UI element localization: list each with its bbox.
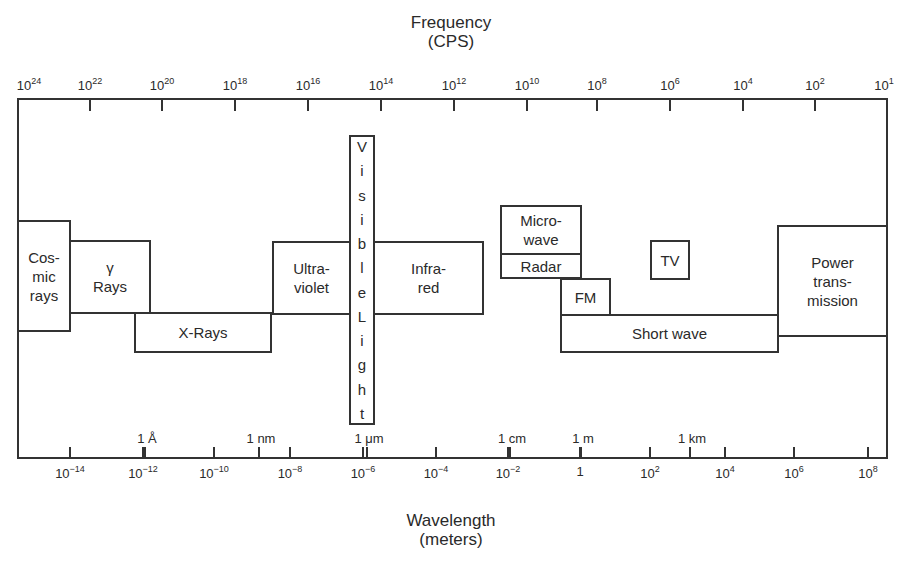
- wavelength-tick-mark: [289, 447, 291, 459]
- visible-light-letter: V: [357, 138, 367, 155]
- band-label: Infra- red: [411, 259, 446, 297]
- tick-exponent: 22: [92, 76, 102, 86]
- tick-base: 10: [442, 78, 456, 93]
- wavelength-label: Wavelength: [351, 511, 551, 530]
- wavelength-tick-label: 106: [784, 464, 803, 481]
- tick-base: 10: [515, 78, 529, 93]
- wavelength-tick-label: 104: [715, 464, 734, 481]
- wavelength-unit-tick: [258, 447, 260, 459]
- visible-light-letter: L: [358, 308, 366, 325]
- wavelength-unit-marker: 1 cm: [498, 431, 526, 446]
- band-radar: Radar: [500, 253, 582, 279]
- visible-light-letter: i: [360, 332, 363, 349]
- tick-base: 10: [369, 78, 383, 93]
- wavelength-unit-marker: 1 Å: [137, 431, 157, 446]
- band-label: γ Rays: [93, 258, 127, 296]
- frequency-tick-label: 108: [587, 76, 606, 93]
- band-x-rays: X-Rays: [134, 312, 272, 353]
- band-cosmic-rays: Cos- mic rays: [17, 220, 71, 332]
- tick-exponent: 16: [310, 76, 320, 86]
- tick-base: 10: [587, 78, 601, 93]
- wavelength-tick-mark: [867, 447, 869, 459]
- band-label: FM: [575, 288, 597, 307]
- visible-light-letter: i: [360, 211, 363, 228]
- tick-exponent: −14: [70, 464, 85, 474]
- band-power-transmission: Power trans- mission: [777, 225, 888, 337]
- tick-base: 10: [17, 78, 31, 93]
- frequency-tick-label: 1022: [78, 76, 102, 93]
- tick-base: 10: [424, 466, 438, 481]
- visible-light-letter: g: [358, 356, 366, 373]
- tick-base: 10: [296, 78, 310, 93]
- tick-base: 10: [278, 466, 292, 481]
- wavelength-tick-mark: [435, 447, 437, 459]
- band-label: Power trans- mission: [807, 253, 858, 310]
- wavelength-tick-mark: [724, 447, 726, 459]
- tick-base: 10: [199, 466, 213, 481]
- tick-base: 10: [78, 78, 92, 93]
- frequency-tick-label: 1014: [369, 76, 393, 93]
- tick-base: 1: [576, 464, 583, 479]
- tick-base: 10: [55, 466, 69, 481]
- band-visible-light: VisibleLight: [349, 135, 375, 425]
- frequency-tick-label: 1018: [223, 76, 247, 93]
- tick-exponent: 2: [820, 76, 825, 86]
- tick-exponent: −8: [292, 464, 302, 474]
- wavelength-tick-mark: [69, 447, 71, 459]
- tick-exponent: 8: [602, 76, 607, 86]
- band-infrared: Infra- red: [373, 241, 484, 315]
- wavelength-tick-label: 10−6: [351, 464, 376, 481]
- wavelength-unit-tick: [366, 447, 368, 459]
- frequency-tick-mark: [380, 99, 382, 111]
- tick-base: 10: [805, 78, 819, 93]
- tick-base: 10: [640, 466, 654, 481]
- frequency-tick-label: 106: [660, 76, 679, 93]
- wavelength-tick-label: 10−14: [55, 464, 85, 481]
- wavelength-unit-tick: [580, 447, 582, 459]
- band-label: Radar: [521, 257, 562, 276]
- frequency-axis-title: Frequency (CPS): [351, 13, 551, 51]
- band-label: Micro- wave: [520, 211, 562, 249]
- tick-base: 10: [223, 78, 237, 93]
- band-ultraviolet: Ultra- violet: [272, 241, 351, 315]
- wavelength-tick-label: 10−12: [128, 464, 158, 481]
- tick-base: 10: [150, 78, 164, 93]
- tick-exponent: 14: [383, 76, 393, 86]
- frequency-tick-mark: [89, 99, 91, 111]
- band-microwave: Micro- wave: [500, 205, 582, 255]
- band-label: Short wave: [632, 324, 707, 343]
- tick-exponent: −4: [438, 464, 448, 474]
- frequency-unit: (CPS): [351, 32, 551, 51]
- tick-exponent: −10: [214, 464, 229, 474]
- visible-light-letter: b: [358, 235, 366, 252]
- wavelength-tick-label: 10−8: [278, 464, 303, 481]
- frequency-tick-mark: [814, 99, 816, 111]
- wavelength-tick-mark: [213, 447, 215, 459]
- band-label: X-Rays: [178, 323, 227, 342]
- wavelength-unit-tick: [509, 447, 511, 459]
- band-label: Ultra- violet: [293, 259, 330, 297]
- wavelength-unit-tick: [144, 447, 146, 459]
- visible-light-letter: s: [358, 187, 366, 204]
- tick-base: 10: [351, 466, 365, 481]
- frequency-tick-mark: [453, 99, 455, 111]
- wavelength-tick-label: 10−2: [496, 464, 521, 481]
- visible-light-letter: i: [360, 162, 363, 179]
- tick-base: 10: [784, 466, 798, 481]
- wavelength-unit-tick: [689, 447, 691, 459]
- band-label: Cos- mic rays: [28, 248, 60, 305]
- wavelength-axis-title: Wavelength (meters): [351, 511, 551, 549]
- tick-base: 10: [496, 466, 510, 481]
- wavelength-unit-marker: 1 nm: [247, 431, 276, 446]
- tick-exponent: 1: [889, 76, 894, 86]
- wavelength-tick-label: 10−4: [424, 464, 449, 481]
- tick-exponent: 6: [675, 76, 680, 86]
- tick-exponent: 10: [529, 76, 539, 86]
- band-tv: TV: [650, 240, 690, 280]
- tick-exponent: 24: [31, 76, 41, 86]
- frequency-tick-label: 1020: [150, 76, 174, 93]
- tick-exponent: −2: [510, 464, 520, 474]
- frequency-tick-mark: [234, 99, 236, 111]
- visible-light-letter: l: [360, 259, 363, 276]
- frequency-tick-label: 1010: [515, 76, 539, 93]
